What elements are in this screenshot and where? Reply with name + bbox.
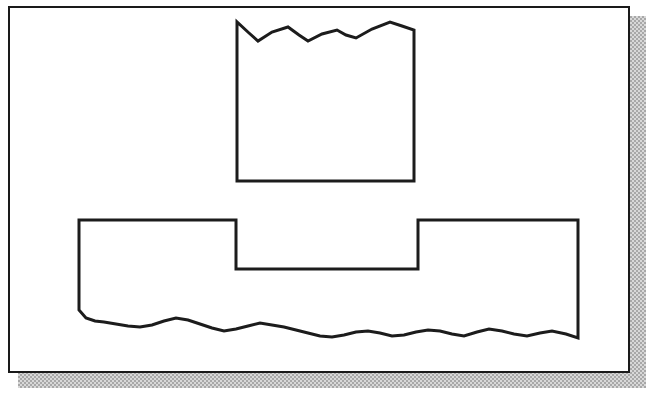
torn-top-rectangle-outline <box>237 22 414 181</box>
line-drawing-canvas <box>0 0 659 404</box>
figure-screenshot: Schematic line drawing <box>0 0 659 404</box>
stepped-wavy-base-shape-outline <box>79 220 578 338</box>
